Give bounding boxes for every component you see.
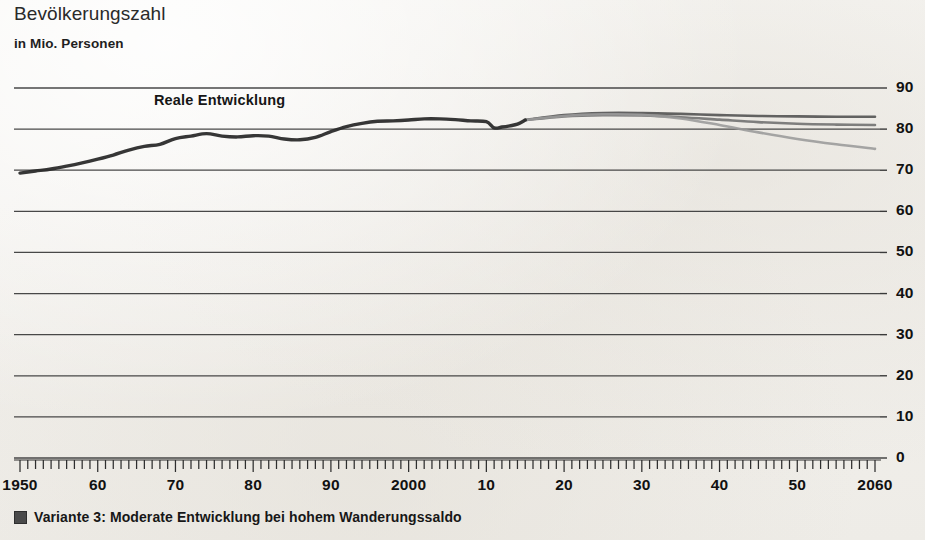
y-axis-label: 10 <box>896 407 914 425</box>
population-chart: Bevölkerungszahl in Mio. Personen Reale … <box>0 0 925 540</box>
x-axis-label: 80 <box>218 476 288 494</box>
x-axis-label: 2060 <box>840 476 910 494</box>
x-axis-label: 20 <box>529 476 599 494</box>
y-axis-label: 70 <box>896 160 914 178</box>
chart-plot-area <box>0 0 925 540</box>
x-axis-label: 60 <box>63 476 133 494</box>
y-axis-label: 30 <box>896 325 914 343</box>
y-axis-label: 20 <box>896 366 914 384</box>
x-axis-label: 40 <box>685 476 755 494</box>
y-axis-label: 50 <box>896 242 914 260</box>
series-line-history <box>20 119 525 173</box>
chart-legend: Variante 3: Moderate Entwicklung bei hoh… <box>14 509 462 525</box>
y-axis-label: 80 <box>896 119 914 137</box>
legend-item-label: Variante 3: Moderate Entwicklung bei hoh… <box>34 509 462 525</box>
x-axis-label: 10 <box>451 476 521 494</box>
square-marker <box>14 511 27 524</box>
x-axis-label: 2000 <box>374 476 444 494</box>
annotation-reale-entwicklung: Reale Entwicklung <box>154 92 286 108</box>
y-axis-label: 0 <box>896 448 905 466</box>
y-axis-label: 60 <box>896 201 914 219</box>
x-axis-label: 1950 <box>0 476 55 494</box>
x-axis-label: 30 <box>607 476 677 494</box>
x-axis-label: 70 <box>140 476 210 494</box>
x-axis-label: 90 <box>296 476 366 494</box>
x-axis-label: 50 <box>762 476 832 494</box>
y-axis-label: 90 <box>896 78 914 96</box>
y-axis-label: 40 <box>896 284 914 302</box>
